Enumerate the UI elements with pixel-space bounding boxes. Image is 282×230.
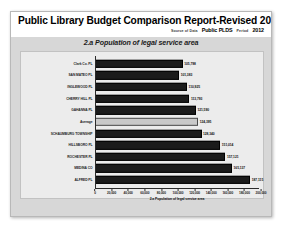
x-tick-label: 40,000 (124, 191, 133, 195)
x-tick: 200,000 (256, 189, 267, 195)
bar[interactable] (95, 176, 250, 184)
bar-row: ALFRED PL187,115 (21, 174, 263, 186)
bar-category-label: MEDINA CO (21, 166, 95, 170)
x-tick: 60,000 (140, 189, 149, 195)
bar-value-label: 113,793 (191, 97, 202, 101)
report-card: Public Library Budget Comparison Report-… (10, 11, 272, 217)
bar-track: 110,925 (95, 81, 263, 93)
bar[interactable] (95, 95, 189, 103)
bar-row: SAN MATEO PL101,383 (21, 70, 263, 82)
report-header: Public Library Budget Comparison Report-… (11, 12, 271, 37)
x-tick-label: 60,000 (140, 191, 149, 195)
x-axis-ticks: 020,00040,00060,00080,000100,000120,0001… (95, 189, 259, 197)
bar-track: 124,395 (95, 116, 263, 128)
bar-row: CHERRY HILL PL113,793 (21, 93, 263, 105)
bar-track: 165,137 (95, 163, 263, 175)
bar[interactable] (95, 129, 202, 137)
bar-track: 187,115 (95, 174, 263, 186)
bar[interactable] (95, 164, 232, 172)
x-tick: 160,000 (222, 189, 233, 195)
bar-value-label: 121,590 (197, 108, 209, 112)
bar-category-label: Clark Co. PL (21, 62, 95, 66)
bar-track: 157,121 (95, 151, 263, 163)
bar-category-label: ALFRED PL (21, 178, 95, 182)
bar-row: MEDINA CO165,137 (21, 163, 263, 175)
period-label: Period (237, 29, 249, 33)
x-tick: 80,000 (157, 189, 166, 195)
bar[interactable] (95, 106, 196, 114)
x-tick-label: 200,000 (256, 191, 267, 195)
bar[interactable] (95, 60, 183, 68)
page-title: Public Library Budget Comparison Report-… (18, 15, 272, 26)
bar-value-label: 128,340 (203, 132, 215, 136)
bar-value-label: 105,798 (184, 62, 196, 66)
bar-track: 113,793 (95, 93, 263, 105)
x-tick-label: 160,000 (222, 191, 233, 195)
y-axis-line (95, 56, 96, 188)
source-of-data-label: Source of Data (171, 29, 198, 33)
bar-category-label: ROCHESTER PL (21, 155, 95, 159)
bar-row: INGLEWOOD PL110,925 (21, 81, 263, 93)
bar-value-label: 165,137 (234, 166, 246, 170)
bar-value-label: 151,014 (222, 143, 234, 147)
screenshot-root: Public Library Budget Comparison Report-… (0, 0, 282, 230)
bar[interactable] (95, 83, 187, 91)
x-tick: 40,000 (124, 189, 133, 195)
bar-average[interactable] (95, 118, 198, 126)
bar-value-label: 157,121 (227, 155, 239, 159)
chart-title: 2.a Population of legal service area (11, 39, 271, 47)
bar-category-label: HILLSBORO PL (21, 143, 95, 147)
bar-value-label: 187,115 (252, 178, 263, 182)
bar-category-label: GAHANNA PL (21, 108, 95, 112)
plot-area: Clark Co. PL105,798SAN MATEO PL101,383IN… (20, 51, 264, 199)
bar[interactable] (95, 71, 179, 79)
bar-track: 121,590 (95, 105, 263, 117)
x-tick: 140,000 (206, 189, 217, 195)
x-tick-label: 140,000 (206, 191, 217, 195)
bar-row: GAHANNA PL121,590 (21, 105, 263, 117)
x-tick: 100,000 (173, 189, 184, 195)
bar-track: 105,798 (95, 58, 263, 70)
bar-track: 151,014 (95, 139, 263, 151)
x-tick-label: 120,000 (189, 191, 200, 195)
bar-row: Clark Co. PL105,798 (21, 58, 263, 70)
period-value: 2012 (252, 27, 264, 33)
bar-row: HILLSBORO PL151,014 (21, 139, 263, 151)
x-tick: 20,000 (107, 189, 116, 195)
x-tick: 0 (94, 189, 96, 195)
x-tick: 120,000 (189, 189, 200, 195)
chart-panel: 2.a Population of legal service area Cla… (11, 37, 271, 217)
x-tick-label: 20,000 (107, 191, 116, 195)
source-of-data-value: Public PLDS (202, 27, 233, 33)
x-tick: 180,000 (239, 189, 250, 195)
bar-category-label: SAN MATEO PL (21, 73, 95, 77)
bar-value-label: 101,383 (181, 73, 193, 77)
x-tick-label: 0 (94, 191, 96, 195)
x-tick-label: 180,000 (239, 191, 250, 195)
report-meta: Source of Data Public PLDS Period 2012 (171, 27, 264, 33)
x-tick-label: 100,000 (173, 191, 184, 195)
bar-rows: Clark Co. PL105,798SAN MATEO PL101,383IN… (21, 58, 263, 186)
bar-row: SCHAUMBURG TOWNSHIP128,340 (21, 128, 263, 140)
bar[interactable] (95, 153, 225, 161)
bar-category-label: INGLEWOOD PL (21, 85, 95, 89)
bar-category-label: CHERRY HILL PL (21, 97, 95, 101)
x-axis-title: 2.a Population of legal service area (95, 197, 259, 201)
bar-track: 128,340 (95, 128, 263, 140)
x-tick-label: 80,000 (157, 191, 166, 195)
bar-value-label: 124,395 (200, 120, 212, 124)
bar-category-label: SCHAUMBURG TOWNSHIP (21, 132, 95, 136)
bar-row: Average124,395 (21, 116, 263, 128)
bar-track: 101,383 (95, 70, 263, 82)
bar-row: ROCHESTER PL157,121 (21, 151, 263, 163)
bar-value-label: 110,925 (189, 85, 200, 89)
bar[interactable] (95, 141, 220, 149)
bar-category-label: Average (21, 120, 95, 124)
